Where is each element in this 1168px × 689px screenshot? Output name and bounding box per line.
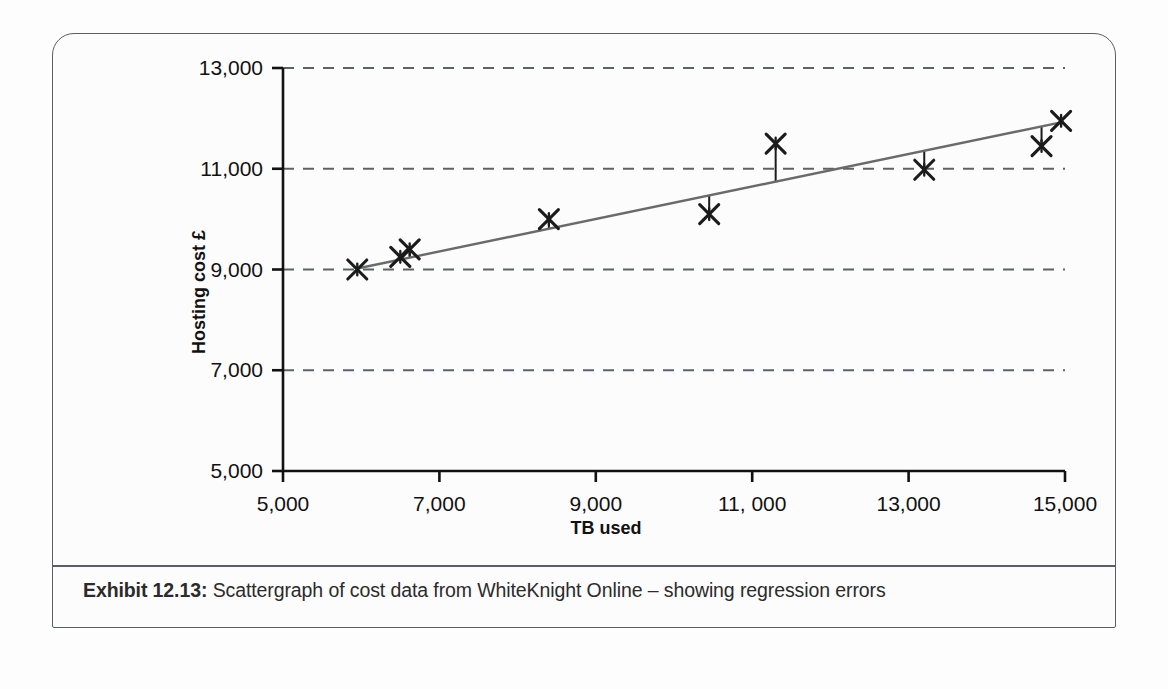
data-point-marker — [766, 134, 785, 153]
page-root: 5,0007,0009,00011, 00013,00015,000 5,000… — [0, 0, 1168, 689]
data-point-marker — [915, 160, 934, 179]
chart-plot-area: 5,0007,0009,00011, 00013,00015,000 5,000… — [53, 34, 1117, 565]
gridlines-group — [283, 68, 1065, 370]
y-tick-label: 11,000 — [200, 157, 263, 180]
data-point-marker — [1052, 111, 1071, 130]
caption-label: Exhibit 12.13: — [83, 579, 207, 601]
caption-text: Scattergraph of cost data from WhiteKnig… — [213, 579, 886, 601]
x-tick-label: 7,000 — [413, 492, 466, 515]
caption-divider — [53, 565, 1115, 567]
x-tick-label: 13,000 — [876, 492, 940, 515]
x-tick-label: 11, 000 — [718, 492, 787, 515]
axis-ticks-group — [272, 68, 1065, 482]
y-tick-label: 7,000 — [210, 358, 263, 381]
x-axis-title: TB used — [570, 518, 641, 538]
scattergraph-svg: 5,0007,0009,00011, 00013,00015,000 5,000… — [53, 34, 1117, 565]
x-tick-label: 9,000 — [570, 492, 623, 515]
y-tick-label: 9,000 — [210, 258, 263, 281]
data-point-marker — [700, 205, 719, 224]
y-tick-label: 5,000 — [210, 459, 263, 482]
data-point-marker — [400, 240, 419, 259]
exhibit-frame: 5,0007,0009,00011, 00013,00015,000 5,000… — [52, 33, 1116, 628]
x-tick-label: 5,000 — [257, 492, 310, 515]
data-point-marker — [539, 210, 558, 229]
y-tick-label: 13,000 — [199, 56, 263, 79]
x-tick-label: 15,000 — [1033, 492, 1097, 515]
exhibit-caption: Exhibit 12.13: Scattergraph of cost data… — [83, 579, 1095, 602]
regression-line-group — [357, 122, 1063, 269]
regression-line — [357, 122, 1063, 269]
y-axis-title: Hosting cost £ — [189, 230, 209, 354]
data-point-marker — [1032, 137, 1051, 156]
x-tick-labels-group: 5,0007,0009,00011, 00013,00015,000 — [257, 492, 1097, 515]
